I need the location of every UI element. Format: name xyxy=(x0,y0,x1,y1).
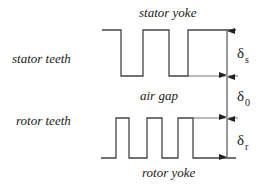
delta-s-label: δ s xyxy=(237,45,249,65)
stator-profile xyxy=(102,30,236,76)
stator-rotor-diagram: stator yoke stator teeth air gap rotor t… xyxy=(0,0,274,185)
svg-text:δ: δ xyxy=(237,88,244,104)
svg-text:δ: δ xyxy=(237,132,244,148)
rotor-profile xyxy=(101,118,236,158)
svg-text:δ: δ xyxy=(237,45,244,61)
stator-yoke-label: stator yoke xyxy=(139,5,197,20)
rotor-yoke-label: rotor yoke xyxy=(142,165,196,180)
svg-text:r: r xyxy=(245,141,249,152)
delta-0-label: δ 0 xyxy=(237,88,250,108)
stator-teeth-label: stator teeth xyxy=(12,51,71,66)
svg-text:0: 0 xyxy=(245,97,250,108)
svg-text:s: s xyxy=(245,54,249,65)
air-gap-label: air gap xyxy=(140,88,178,103)
rotor-teeth-label: rotor teeth xyxy=(16,113,71,128)
delta-r-label: δ r xyxy=(237,132,249,152)
